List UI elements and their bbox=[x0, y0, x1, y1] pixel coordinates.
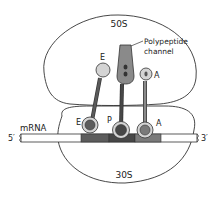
label-50s-e: E bbox=[100, 53, 105, 62]
label-channel-1: Polypeptide bbox=[144, 37, 188, 46]
label-mrna: mRNA bbox=[20, 123, 47, 133]
trna-50s-e-site bbox=[96, 63, 110, 77]
label-50s: 50S bbox=[110, 19, 127, 29]
ribosome-diagram: 50S 30S 5′ 3′ mRNA Polypeptide channel E… bbox=[0, 0, 218, 197]
label-channel-2: channel bbox=[144, 47, 174, 56]
label-5prime: 5′ bbox=[8, 134, 15, 143]
label-30s-a: A bbox=[156, 119, 162, 128]
label-30s: 30S bbox=[115, 170, 132, 180]
codon-e bbox=[81, 134, 109, 142]
label-30s-e: E bbox=[76, 118, 81, 127]
label-30s-p: P bbox=[107, 116, 112, 125]
label-3prime: 3′ bbox=[201, 134, 208, 143]
label-50s-a: A bbox=[154, 71, 160, 80]
